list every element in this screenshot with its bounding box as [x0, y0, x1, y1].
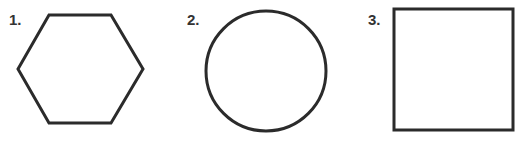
- circle-shape: [206, 11, 326, 131]
- shapes-canvas: [0, 0, 525, 146]
- hexagon-shape: [18, 15, 143, 123]
- square-shape: [394, 9, 513, 130]
